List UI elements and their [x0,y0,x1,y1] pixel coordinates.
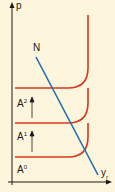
shift-arrows [30,97,34,152]
curve-a2-label: A2 [17,98,27,109]
curve-a0-label-main: A [17,164,24,175]
x-axis-label-sub: r [106,174,108,180]
arrow-up-icon [30,131,34,136]
curve-a2 [15,15,88,88]
curve-a1-label-main: A [17,131,24,142]
x-axis-label: yr [101,168,108,180]
line-n-label: N [33,43,40,53]
curve-a0-label-sup: 0 [24,164,27,170]
curve-a1-label: A1 [17,131,27,142]
curve-a0-label: A0 [17,164,27,175]
arrow-up-icon [30,97,34,102]
x-axis-arrow-icon [106,180,112,185]
curve-a2-label-sup: 2 [24,98,27,104]
y-axis-label: p [16,1,22,11]
y-axis-arrow-icon [10,2,15,8]
curve-a1-label-sup: 1 [24,131,27,137]
curve-a2-label-main: A [17,98,24,109]
